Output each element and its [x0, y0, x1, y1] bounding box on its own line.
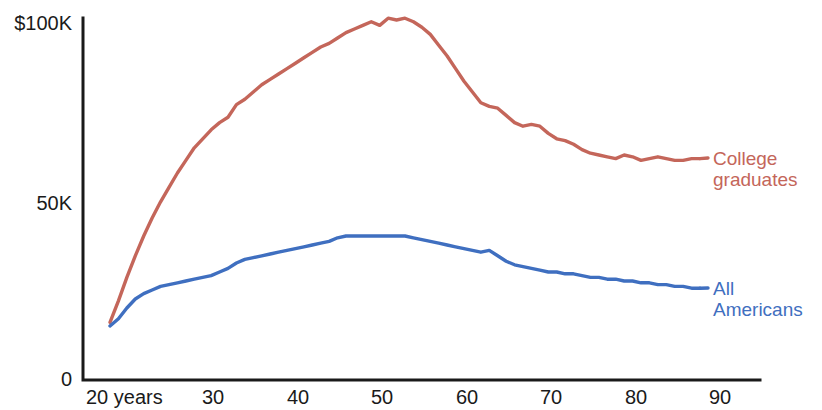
- chart-axes: [83, 18, 760, 380]
- chart-series-group: [110, 18, 708, 326]
- x-axis-tick-20: 20 years: [86, 386, 163, 408]
- series-label-all-americans-line1: All: [713, 278, 734, 299]
- x-axis-tick-40: 40: [287, 386, 309, 408]
- line-chart: $100K 50K 0 20 years 30 40 50 60 70 80 9…: [0, 0, 822, 410]
- series-leader-college-graduates: [700, 158, 708, 159]
- series-label-all-americans-line2: Americans: [713, 299, 803, 320]
- series-line-all-americans: [110, 236, 700, 326]
- x-axis-tick-70: 70: [540, 386, 562, 408]
- x-axis-tick-50: 50: [371, 386, 393, 408]
- chart-plot-area: [0, 0, 822, 410]
- x-axis-tick-60: 60: [456, 386, 478, 408]
- x-axis-tick-80: 80: [625, 386, 647, 408]
- x-axis-tick-30: 30: [202, 386, 224, 408]
- series-label-college-graduates-line1: College: [713, 148, 777, 169]
- y-axis-tick-50k: 50K: [0, 192, 72, 214]
- series-label-college-graduates-line2: graduates: [713, 169, 798, 190]
- y-axis-tick-100k: $100K: [0, 12, 72, 34]
- x-axis-tick-90: 90: [709, 386, 731, 408]
- y-axis-tick-0: 0: [0, 368, 72, 390]
